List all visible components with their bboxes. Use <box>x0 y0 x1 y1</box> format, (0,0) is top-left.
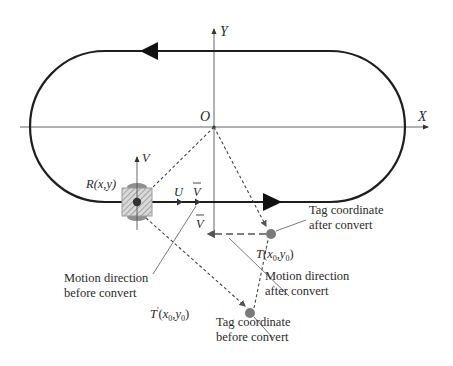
robot-local-v-label: V <box>142 151 151 165</box>
robot-label-prefix: R <box>85 177 94 191</box>
annotation-motion-after-line2: after convert <box>265 284 329 298</box>
robot-label: R(x,y) <box>85 177 116 191</box>
dashed-origin-to-tag-after <box>214 127 266 226</box>
u-axis-arrow-icon <box>177 199 183 206</box>
dashed-origin-to-robot <box>150 127 214 190</box>
robot-local-u-label: U <box>174 185 184 199</box>
tag-before-close-paren: ) <box>185 307 189 321</box>
track-direction-arrow-left-icon <box>140 42 158 60</box>
annotation-tag-after-line2: after convert <box>309 218 373 232</box>
annotations: Tag coordinate after convert Motion dire… <box>64 203 384 344</box>
coordinate-conversion-diagram: X Y O V R(x,y) U V V <box>0 0 453 366</box>
annotation-motion-before-line1: Motion direction <box>64 271 149 285</box>
y-axis-label: Y <box>220 24 230 39</box>
tag-after-close-paren: ) <box>289 247 293 261</box>
tag-after-point <box>266 229 276 239</box>
annotation-tag-before-line2: before convert <box>216 330 289 344</box>
tag-before-label: T'(x0,y0) <box>150 305 189 323</box>
origin-label: O <box>200 109 210 124</box>
leader-tag-after <box>276 220 306 231</box>
annotation-tag-after-line1: Tag coordinate <box>309 203 384 217</box>
robot-position-point <box>133 198 141 206</box>
leader-motion-before <box>153 206 196 274</box>
annotation-motion-after-line1: Motion direction <box>265 269 350 283</box>
tag-after-convert: V T(x0,y0) <box>196 215 294 263</box>
annotation-tag-before-line1: Tag coordinate <box>216 315 291 329</box>
velocity-before-label: V <box>193 185 202 199</box>
velocity-before-arrow-icon <box>195 199 201 206</box>
velocity-after-label: V <box>196 217 205 231</box>
robot: V R(x,y) U V <box>85 151 202 230</box>
construction-lines <box>146 127 268 308</box>
x-axis-label: X <box>417 109 427 124</box>
tag-after-label: T(x0,y0) <box>256 247 294 263</box>
annotation-motion-before-line2: before convert <box>64 286 137 300</box>
track-direction-arrow-right-icon <box>263 193 282 211</box>
robot-label-args: (x,y) <box>94 177 117 191</box>
